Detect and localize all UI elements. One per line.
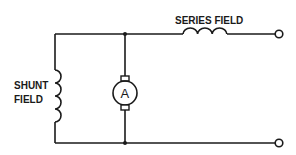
- armature-label: A: [121, 86, 130, 101]
- series-field-label: SERIES FIELD: [175, 15, 243, 26]
- terminal-top: [275, 30, 283, 38]
- shunt-field-coil: [55, 70, 61, 122]
- brush-bottom: [121, 105, 129, 110]
- shunt-field-label-line1: SHUNT: [14, 80, 48, 91]
- junction-top: [123, 32, 127, 36]
- junction-bottom: [123, 141, 127, 145]
- circuit-diagram: SERIES FIELD SHUNT FIELD A: [0, 0, 296, 155]
- shunt-field-label-line2: FIELD: [14, 94, 43, 105]
- series-field-coil: [183, 28, 227, 34]
- terminal-bottom: [275, 139, 283, 147]
